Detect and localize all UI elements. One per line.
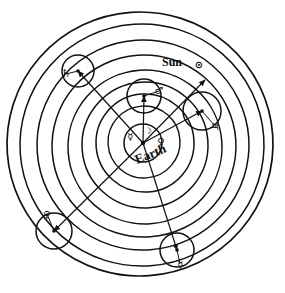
orbit-diagram-canvas: ♄♃♂♀☿ ☿♀☽ Earth Sun ⊙	[0, 0, 285, 293]
sun-label: Sun	[162, 55, 182, 69]
earth-label: Earth	[132, 140, 168, 166]
epicycle-center-dot-venus	[52, 229, 56, 233]
epicycle-center-dot-saturn	[76, 69, 80, 73]
inner-body-mercury-inner-icon: ☿	[127, 131, 133, 142]
planet-symbol-mercury-icon: ☿	[177, 259, 183, 270]
cosmos-svg: ♄♃♂♀☿ ☿♀☽ Earth Sun ⊙	[0, 0, 285, 293]
orbit-rings-group	[0, 3, 282, 285]
planet-symbol-mars-icon: ♂	[155, 85, 164, 96]
sun-symbol-icon: ⊙	[195, 59, 203, 70]
epicycle-center-dot-mercury	[175, 248, 179, 252]
planet-group-jupiter: ♃	[183, 92, 221, 133]
earth-dot	[141, 141, 145, 145]
inner-body-moon-node-icon: ☽	[144, 126, 152, 136]
orbit-ring-outermost-sphere	[0, 3, 282, 285]
planet-symbol-venus-icon: ♀	[43, 209, 50, 220]
planet-symbol-saturn-icon: ♄	[61, 67, 71, 80]
epicycle-center-dot-jupiter	[200, 109, 204, 113]
epicycle-center-dot-mars	[142, 94, 146, 98]
planet-symbol-jupiter-icon: ♃	[210, 120, 220, 133]
